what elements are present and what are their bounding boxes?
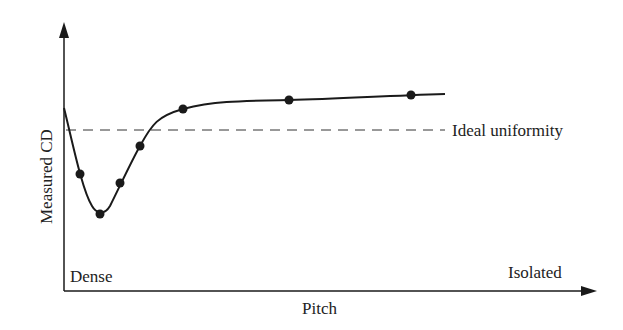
data-point [136, 142, 145, 151]
y-axis-label: Measured CD [37, 129, 56, 224]
chart: Ideal uniformity Measured CD Dense Isola… [0, 0, 623, 330]
data-point [407, 91, 416, 100]
data-point [285, 96, 294, 105]
data-point [179, 105, 188, 114]
x-start-label: Dense [70, 267, 112, 286]
x-axis-label: Pitch [302, 299, 337, 318]
data-point [116, 179, 125, 188]
data-point [96, 210, 105, 219]
x-axis-arrow-icon [581, 286, 597, 296]
ideal-uniformity-label: Ideal uniformity [452, 121, 563, 140]
data-points [76, 91, 416, 219]
x-end-label: Isolated [508, 263, 562, 282]
measured-cd-curve [64, 94, 445, 212]
data-point [76, 170, 85, 179]
y-axis-arrow-icon [59, 22, 69, 38]
